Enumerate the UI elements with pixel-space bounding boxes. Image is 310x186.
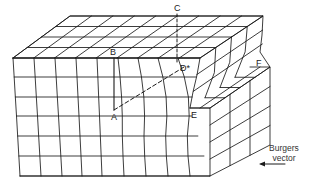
burgers-vector-caption: Burgers vector — [262, 144, 306, 164]
label-b: B — [110, 48, 116, 57]
caption-line-2: vector — [262, 154, 306, 164]
label-a: A — [111, 113, 117, 122]
label-d: D* — [180, 64, 190, 73]
label-e: E — [191, 111, 197, 120]
label-c: C — [174, 4, 181, 13]
label-f: F — [256, 59, 262, 68]
